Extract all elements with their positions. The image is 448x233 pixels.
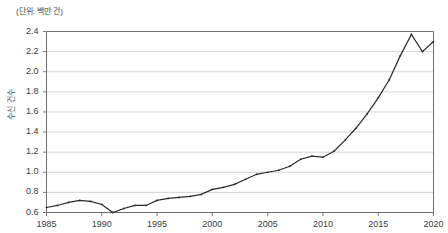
x-tick-label: 1990 xyxy=(82,219,122,229)
x-tick-label: 2020 xyxy=(414,219,448,229)
y-tick-label: 0.8 xyxy=(13,186,39,196)
y-tick-label: 2.0 xyxy=(13,66,39,76)
x-tick-label: 2000 xyxy=(192,219,232,229)
axis-lines xyxy=(47,32,434,213)
x-axis-tick-marks xyxy=(47,213,434,217)
x-tick-label: 2015 xyxy=(358,219,398,229)
x-tick-label: 1985 xyxy=(27,219,67,229)
data-point-markers xyxy=(46,34,435,214)
x-tick-label: 1995 xyxy=(137,219,177,229)
y-tick-label: 1.0 xyxy=(13,166,39,176)
data-series-line xyxy=(47,35,434,213)
y-tick-label: 1.2 xyxy=(13,146,39,156)
x-tick-label: 2005 xyxy=(248,219,288,229)
y-tick-label: 1.4 xyxy=(13,126,39,136)
y-tick-label: 1.6 xyxy=(13,106,39,116)
y-axis-tick-marks xyxy=(43,32,47,213)
x-tick-label: 2010 xyxy=(303,219,343,229)
gridlines xyxy=(47,32,434,193)
y-tick-label: 0.6 xyxy=(13,207,39,217)
y-tick-label: 2.2 xyxy=(13,46,39,56)
y-tick-label: 2.4 xyxy=(13,26,39,36)
y-tick-label: 1.8 xyxy=(13,86,39,96)
